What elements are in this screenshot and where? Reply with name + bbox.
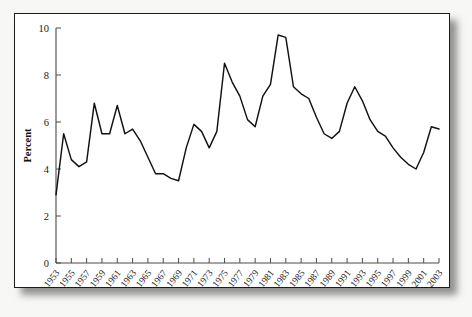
y-tick-label: 8	[44, 70, 49, 81]
figure-root: 0246810195319551957195919611963196519671…	[0, 0, 472, 317]
x-tick-label: 1979	[241, 268, 261, 289]
y-tick-label: 4	[44, 164, 50, 175]
x-tick-label: 1991	[333, 268, 353, 289]
x-tick-label: 1995	[364, 268, 384, 289]
data-series-line	[56, 35, 439, 195]
x-tick-label: 1975	[211, 268, 231, 289]
x-tick-label: 1993	[348, 268, 368, 289]
x-tick-label: 1967	[149, 268, 169, 289]
x-tick-label: 1957	[73, 268, 93, 289]
x-tick-label: 1987	[302, 268, 322, 289]
x-tick-label: 1985	[287, 268, 307, 289]
y-axis-title: Percent	[22, 128, 33, 163]
x-tick-label: 1961	[103, 268, 123, 289]
y-tick-label: 6	[44, 117, 49, 128]
x-tick-label: 1963	[119, 268, 139, 289]
x-tick-label: 1989	[318, 268, 338, 289]
x-tick-label: 1965	[134, 268, 154, 289]
x-tick-label: 2003	[425, 268, 445, 289]
line-chart-plot: 0246810195319551957195919611963196519671…	[15, 14, 451, 289]
y-tick-label: 2	[44, 211, 49, 222]
y-tick-label: 10	[39, 23, 50, 34]
scanned-page-sheet: 0246810195319551957195919611963196519671…	[14, 13, 450, 288]
x-tick-label: 1981	[256, 268, 276, 289]
x-tick-label: 1971	[180, 268, 200, 289]
x-tick-label: 1983	[272, 268, 292, 289]
x-tick-label: 1997	[379, 268, 399, 289]
x-tick-label: 1977	[226, 268, 246, 289]
x-tick-label: 1959	[88, 268, 108, 289]
y-tick-label: 0	[44, 258, 49, 269]
x-tick-label: 1973	[195, 268, 215, 289]
x-tick-label: 2001	[410, 268, 430, 289]
x-tick-label: 1969	[165, 268, 185, 289]
x-tick-label: 1953	[42, 268, 62, 289]
x-tick-label: 1999	[394, 268, 414, 289]
x-tick-label: 1955	[57, 268, 77, 289]
